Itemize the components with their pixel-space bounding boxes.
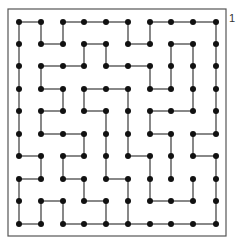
maze-node	[168, 63, 174, 69]
maze-node	[213, 153, 219, 159]
maze-node	[81, 86, 87, 92]
maze-node	[213, 86, 219, 92]
maze-node	[16, 108, 22, 114]
maze-node	[213, 63, 219, 69]
maze-node	[147, 176, 153, 182]
maze-node	[168, 153, 174, 159]
maze-node	[213, 41, 219, 47]
maze-node	[16, 63, 22, 69]
maze-node	[38, 198, 44, 204]
maze-node	[16, 153, 22, 159]
maze-node	[103, 86, 109, 92]
maze-node	[213, 108, 219, 114]
maze-node	[38, 131, 44, 137]
maze-node	[60, 86, 66, 92]
maze-node	[213, 19, 219, 25]
maze-node	[147, 41, 153, 47]
maze-node	[81, 19, 87, 25]
maze-node	[168, 221, 174, 227]
maze-node	[213, 176, 219, 182]
maze-node	[81, 108, 87, 114]
maze-node	[103, 108, 109, 114]
maze-node	[190, 19, 196, 25]
maze-node	[38, 221, 44, 227]
maze-node	[190, 221, 196, 227]
maze-node	[125, 153, 131, 159]
maze-node	[16, 198, 22, 204]
maze-node	[60, 41, 66, 47]
maze-node	[60, 108, 66, 114]
maze-node	[147, 221, 153, 227]
maze-edges	[19, 22, 216, 224]
maze-node	[147, 63, 153, 69]
maze-node	[125, 63, 131, 69]
maze-node	[38, 176, 44, 182]
maze-node	[16, 86, 22, 92]
maze-node	[81, 131, 87, 137]
maze-node	[147, 131, 153, 137]
maze-node	[125, 86, 131, 92]
maze-node	[125, 131, 131, 137]
maze-node	[103, 221, 109, 227]
maze-node	[213, 221, 219, 227]
figure-label: 1	[229, 12, 235, 24]
maze-node	[147, 108, 153, 114]
maze-node	[60, 131, 66, 137]
maze-node	[38, 63, 44, 69]
maze-node	[190, 176, 196, 182]
maze-node	[16, 41, 22, 47]
maze-node	[38, 108, 44, 114]
maze-node	[103, 198, 109, 204]
maze-node	[168, 19, 174, 25]
maze-node	[60, 221, 66, 227]
maze-node	[81, 221, 87, 227]
maze-node	[81, 176, 87, 182]
maze-node	[125, 221, 131, 227]
maze-node	[190, 41, 196, 47]
maze-node	[125, 198, 131, 204]
maze-node	[60, 63, 66, 69]
maze-node	[125, 41, 131, 47]
maze-node	[168, 108, 174, 114]
maze-node	[16, 221, 22, 227]
maze-node	[103, 131, 109, 137]
maze-node	[81, 153, 87, 159]
maze-node	[190, 63, 196, 69]
maze-node	[147, 198, 153, 204]
maze-node	[60, 198, 66, 204]
maze-node	[60, 19, 66, 25]
maze-node	[125, 176, 131, 182]
maze-node	[168, 198, 174, 204]
maze-node	[190, 153, 196, 159]
maze-node	[168, 41, 174, 47]
maze-node	[168, 176, 174, 182]
maze-node	[190, 198, 196, 204]
maze-node	[213, 131, 219, 137]
maze-node	[81, 198, 87, 204]
maze-node	[60, 153, 66, 159]
maze-nodes	[16, 19, 219, 227]
maze-node	[38, 41, 44, 47]
maze-node	[168, 86, 174, 92]
maze-node	[190, 108, 196, 114]
maze-node	[147, 153, 153, 159]
maze-node	[38, 86, 44, 92]
maze-node	[147, 86, 153, 92]
maze-node	[38, 19, 44, 25]
maze-node	[125, 19, 131, 25]
maze-node	[38, 153, 44, 159]
maze-node	[16, 176, 22, 182]
maze-node	[60, 176, 66, 182]
maze-node	[103, 41, 109, 47]
maze-node	[190, 131, 196, 137]
maze-node	[103, 19, 109, 25]
maze-node	[103, 63, 109, 69]
maze-node	[168, 131, 174, 137]
maze-node	[103, 176, 109, 182]
maze-node	[190, 86, 196, 92]
maze-node	[81, 41, 87, 47]
maze-node	[16, 19, 22, 25]
maze-node	[125, 108, 131, 114]
maze-node	[213, 198, 219, 204]
maze-node	[103, 153, 109, 159]
